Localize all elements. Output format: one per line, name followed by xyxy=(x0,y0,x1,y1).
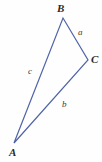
vertex-label-c: C xyxy=(91,54,98,65)
triangle-outline xyxy=(14,18,88,143)
side-label-b: b xyxy=(62,100,67,109)
side-label-a: a xyxy=(78,28,83,37)
vertex-label-a: A xyxy=(9,147,16,158)
vertex-label-b: B xyxy=(57,3,64,14)
triangle-figure: B C A a b c xyxy=(0,0,102,162)
triangle-drawing xyxy=(0,0,102,162)
side-label-c: c xyxy=(28,67,32,76)
